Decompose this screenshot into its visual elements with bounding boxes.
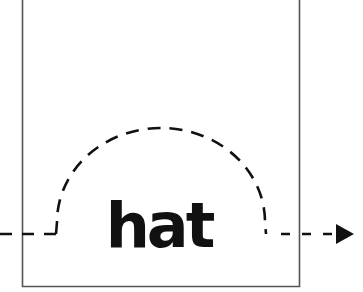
diagram-canvas: hat bbox=[0, 0, 363, 292]
arrowhead-icon bbox=[336, 224, 354, 244]
word-label: hat bbox=[100, 196, 218, 256]
